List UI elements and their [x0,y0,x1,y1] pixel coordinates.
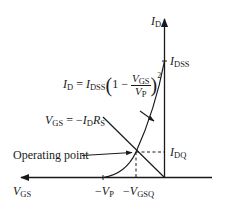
vgs-axis-label: VGS [13,185,31,197]
idss-label: IDSS [170,55,190,67]
load-line-equation: VGS = −IDRS [45,114,105,126]
operating-point-arrow [82,153,132,156]
vgs-over-vp-fraction: VGSVP [131,73,151,97]
vgsq-label: −VGSQ [123,185,154,197]
load-line [103,117,165,178]
id-axis-label: ID [151,15,161,27]
diagram-canvas [0,0,225,212]
vp-label: −VP [95,185,114,197]
idq-label: IDQ [170,146,186,158]
operating-point-label: Operating point [13,149,89,161]
transfer-equation: ID = IDSS(1 − VGSVP)2 [63,73,161,97]
